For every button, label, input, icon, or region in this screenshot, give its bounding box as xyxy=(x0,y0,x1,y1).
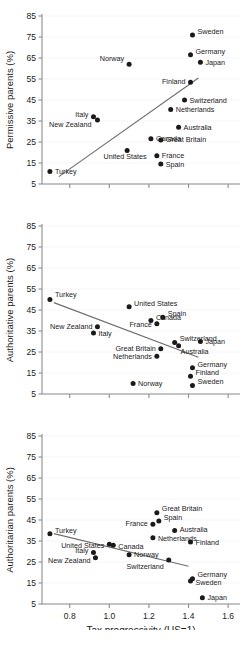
point-label: United States xyxy=(134,299,178,308)
y-tick-label: 75 xyxy=(27,32,37,42)
x-axis-ticks xyxy=(70,394,228,398)
y-tick-label: 5 xyxy=(31,599,36,609)
point-marker xyxy=(182,98,187,103)
data-point[interactable]: Australia xyxy=(172,525,207,534)
y-tick-label: 45 xyxy=(27,515,37,525)
data-point[interactable]: Spain xyxy=(158,160,184,169)
x-axis-ticks xyxy=(70,184,228,188)
data-point[interactable]: Australia xyxy=(176,343,208,356)
y-tick-label: 55 xyxy=(27,494,37,504)
data-point[interactable]: Great Britain xyxy=(158,135,206,144)
y-tick-label: 5 xyxy=(31,389,36,399)
point-marker xyxy=(150,522,155,527)
point-label: Japan xyxy=(205,337,225,346)
point-marker xyxy=(127,304,132,309)
point-label: Germany xyxy=(196,47,226,56)
point-marker xyxy=(172,528,177,533)
point-marker xyxy=(95,117,100,122)
point-label: Italy xyxy=(75,110,89,119)
point-marker xyxy=(154,153,159,158)
x-tick-label: 1.4 xyxy=(183,611,195,621)
point-label: United States xyxy=(104,152,148,161)
point-marker xyxy=(47,297,52,302)
point-label: Netherlands xyxy=(176,105,215,114)
point-marker xyxy=(154,510,159,515)
point-label: Italy xyxy=(75,546,89,555)
point-marker xyxy=(131,381,136,386)
data-point[interactable]: United States xyxy=(104,148,148,162)
point-label: Australia xyxy=(184,123,212,132)
y-tick-label: 15 xyxy=(27,368,37,378)
data-point[interactable]: France xyxy=(129,320,159,329)
data-point[interactable]: New Zealand xyxy=(50,322,100,331)
y-tick-label: 25 xyxy=(27,137,37,147)
data-point[interactable]: Norway xyxy=(100,54,132,67)
data-point[interactable]: United States xyxy=(127,299,178,310)
point-label: Japan xyxy=(205,58,225,67)
point-marker xyxy=(188,80,193,85)
point-marker xyxy=(198,60,203,65)
panel-authoritarian-parents: 857565554535251550.81.01.21.41.6Authorit… xyxy=(0,420,246,630)
y-tick-label: 65 xyxy=(27,473,37,483)
y-axis-title: Authoritarian parents (%) xyxy=(4,467,15,573)
point-marker xyxy=(91,550,96,555)
y-tick-label: 55 xyxy=(27,284,37,294)
point-label: Finland xyxy=(196,538,220,547)
data-point[interactable]: Germany xyxy=(188,47,225,58)
data-point[interactable]: Norway xyxy=(131,379,163,388)
data-point[interactable]: Sweden xyxy=(190,27,223,38)
point-marker xyxy=(166,557,171,562)
x-axis-ticks: 0.81.01.21.41.6 xyxy=(64,604,234,621)
point-marker xyxy=(93,555,98,560)
data-point[interactable]: Japan xyxy=(198,58,225,67)
point-marker xyxy=(150,535,155,540)
point-label: Turkey xyxy=(55,526,77,535)
data-point[interactable]: Switzerland xyxy=(127,557,172,571)
data-point[interactable]: Sweden xyxy=(190,377,223,389)
point-marker xyxy=(188,374,193,379)
point-label: New Zealand xyxy=(49,120,91,129)
point-label: Turkey xyxy=(55,167,77,176)
y-tick-label: 25 xyxy=(27,347,37,357)
data-point[interactable]: Finland xyxy=(162,77,193,86)
point-marker xyxy=(190,383,195,388)
data-point[interactable]: Switzerland xyxy=(182,96,227,105)
point-marker xyxy=(160,315,165,320)
point-label: Great Britain xyxy=(162,504,202,513)
point-label: Italy xyxy=(98,329,112,338)
scatter-plot-figure: 85756555453525155Permissive parents (%)T… xyxy=(0,0,246,663)
point-marker xyxy=(148,136,153,141)
y-axis-title: Authoritative parents (%) xyxy=(4,258,15,363)
data-point[interactable]: Netherlands xyxy=(168,105,215,114)
data-point[interactable]: Turkey xyxy=(47,290,77,303)
y-tick-label: 5 xyxy=(31,179,36,189)
chart-svg-2: 85756555453525155Authoritative parents (… xyxy=(0,210,246,420)
data-point[interactable]: Norway xyxy=(127,550,159,559)
data-point[interactable]: Turkey xyxy=(47,167,77,176)
y-tick-label: 85 xyxy=(27,221,37,231)
point-label: Sweden xyxy=(197,377,223,386)
point-marker xyxy=(200,595,205,600)
x-tick-label: 0.8 xyxy=(64,611,76,621)
point-label: Australia xyxy=(180,525,208,534)
point-marker xyxy=(47,531,52,536)
data-point[interactable]: New Zealand xyxy=(48,555,98,565)
y-tick-label: 35 xyxy=(27,536,37,546)
data-point[interactable]: Australia xyxy=(176,123,211,132)
point-marker xyxy=(176,125,181,130)
data-point[interactable]: New Zealand xyxy=(49,117,100,129)
data-point[interactable]: Japan xyxy=(200,593,227,602)
x-tick-label: 1.6 xyxy=(222,611,234,621)
data-point[interactable]: Italy xyxy=(75,110,96,120)
y-axis-ticks: 85756555453525155 xyxy=(27,11,42,189)
point-marker xyxy=(188,578,193,583)
point-label: Japan xyxy=(207,593,227,602)
point-label: France xyxy=(126,519,148,528)
y-tick-label: 15 xyxy=(27,578,37,588)
x-tick-label: 1.0 xyxy=(103,611,115,621)
data-point[interactable]: Spain xyxy=(156,513,182,524)
point-marker xyxy=(156,519,161,524)
data-point[interactable]: Italy xyxy=(91,329,112,338)
data-point[interactable]: Turkey xyxy=(47,526,77,537)
point-marker xyxy=(188,540,193,545)
